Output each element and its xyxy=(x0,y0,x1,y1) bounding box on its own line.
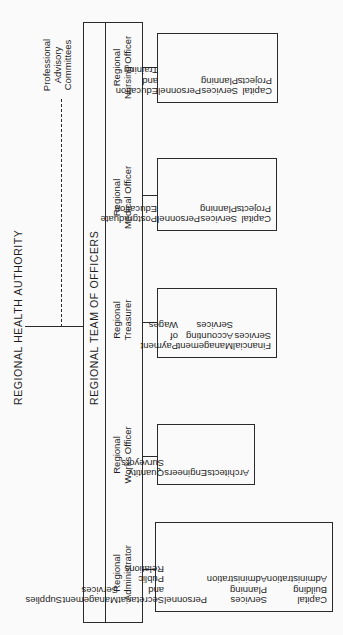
connector-medical xyxy=(142,195,157,196)
dept-list: Capital Building Administration Services… xyxy=(156,523,332,611)
dept-item: Postgraduate Education xyxy=(100,203,157,224)
dept-item: Engineers xyxy=(165,468,208,479)
officer-line: Treasurer xyxy=(123,280,134,360)
dept-list: Financial Services Management Accounting… xyxy=(158,289,276,357)
dept-item: Secretariat and Public Relations xyxy=(118,563,164,605)
advisory-line: Committees xyxy=(63,30,74,100)
authority-connector xyxy=(25,326,83,327)
dept-list: Capital Projects Services Planning Perso… xyxy=(158,159,276,230)
officer-treasurer: Regional Treasurer xyxy=(112,280,133,360)
departments-nursing: Capital Projects Services Planning Perso… xyxy=(157,33,278,103)
dept-item: Services Planning xyxy=(201,75,238,96)
officer-line: Regional xyxy=(112,280,123,360)
dept-item: Payment of Wages xyxy=(140,320,178,352)
departments-medical: Capital Projects Services Planning Perso… xyxy=(157,158,277,231)
dept-item: Education and Training xyxy=(116,65,158,97)
departments-treasurer: Financial Services Management Accounting… xyxy=(157,288,277,358)
advisory-committees-label: Professional Advisory Committees xyxy=(42,30,74,100)
dept-item: Capital Building Administration xyxy=(267,574,327,606)
dept-item: Supplies xyxy=(26,595,62,606)
officer-medical: Regional Medical Officer xyxy=(112,155,133,240)
dept-item: Services Planning Administration xyxy=(207,574,267,606)
advisory-line: Professional xyxy=(42,30,53,100)
dept-item: Capital Projects xyxy=(238,75,272,96)
dept-item: Quantity Surveyors xyxy=(122,457,165,478)
dept-list: Capital Projects Services Planning Perso… xyxy=(158,34,277,102)
officer-line: Works Officer xyxy=(123,415,134,495)
departments-works: Architects Engineers Quantity Surveyors xyxy=(157,424,255,485)
dept-item: Management Accounting Services xyxy=(178,320,233,352)
dept-item: Personnel xyxy=(164,595,207,606)
dept-item: Financial Services xyxy=(233,330,271,351)
dept-item: Capital Projects xyxy=(237,203,271,224)
departments-administrator: Capital Building Administration Services… xyxy=(155,522,333,612)
officer-line: Medical Officer xyxy=(123,155,134,240)
authority-title: REGIONAL HEALTH AUTHORITY xyxy=(12,235,24,405)
dept-item: Management Services xyxy=(62,584,117,605)
dept-item: Architects xyxy=(207,468,249,479)
officer-works: Regional Works Officer xyxy=(112,415,133,495)
dept-item: Services Planning xyxy=(200,203,237,224)
dept-item: Personnel xyxy=(158,86,201,97)
advisory-dashed-connector xyxy=(61,99,62,327)
officer-line: Regional xyxy=(112,155,123,240)
dept-list: Architects Engineers Quantity Surveyors xyxy=(158,425,254,484)
org-chart: REGIONAL HEALTH AUTHORITY Professional A… xyxy=(0,0,343,635)
officer-line: Regional xyxy=(112,415,123,495)
team-title: REGIONAL TEAM OF OFFICERS xyxy=(88,235,100,405)
dept-item: Personnel xyxy=(157,214,200,225)
team-divider xyxy=(105,22,106,623)
